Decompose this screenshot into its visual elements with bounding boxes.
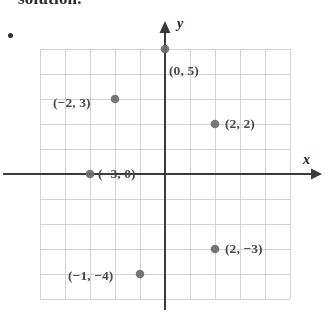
point-label: (−3, 0) <box>98 166 136 182</box>
x-axis-label: x <box>303 152 310 168</box>
coordinate-plane-graph <box>0 0 332 327</box>
point-label: (−2, 3) <box>53 95 91 111</box>
point-label: (−1, −4) <box>68 268 113 284</box>
figure-canvas: solution. (0, 5)(−2, 3)(−3, 0)(2, 2)(2, … <box>0 0 332 327</box>
axis-lines <box>3 21 322 310</box>
point-label: (0, 5) <box>169 63 199 79</box>
y-axis-label: y <box>177 16 183 32</box>
point-label: (2, 2) <box>225 116 255 132</box>
data-points <box>86 45 220 279</box>
point-label: (2, −3) <box>225 241 263 257</box>
